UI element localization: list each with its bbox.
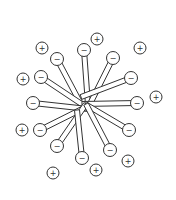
counter-ion: + bbox=[90, 164, 102, 176]
anionic-head: − bbox=[104, 144, 117, 157]
minus-sign-icon: − bbox=[126, 126, 133, 135]
minus-sign-icon: − bbox=[54, 55, 61, 64]
plus-sign-icon: + bbox=[50, 169, 57, 178]
plus-sign-icon: + bbox=[93, 166, 100, 175]
counter-ion: + bbox=[150, 91, 162, 103]
surfactant-tail bbox=[75, 110, 85, 159]
anionic-head: − bbox=[131, 97, 144, 110]
minus-sign-icon: − bbox=[81, 46, 88, 55]
plus-sign-icon: + bbox=[94, 35, 101, 44]
anionic-head: − bbox=[76, 152, 89, 165]
minus-sign-icon: − bbox=[79, 154, 86, 163]
counter-ion: + bbox=[17, 73, 29, 85]
anionic-head: − bbox=[107, 52, 120, 65]
minus-sign-icon: − bbox=[134, 99, 141, 108]
anionic-head: − bbox=[51, 140, 64, 153]
minus-sign-icon: − bbox=[38, 73, 45, 82]
minus-sign-icon: − bbox=[128, 74, 135, 83]
anionic-head: − bbox=[51, 53, 64, 66]
counter-ion: + bbox=[134, 42, 146, 54]
minus-sign-icon: − bbox=[107, 146, 114, 155]
anionic-head: − bbox=[27, 97, 40, 110]
counter-ion: + bbox=[122, 155, 134, 167]
micelle-diagram: −−−−−−−−−−−− +++++++++ bbox=[0, 0, 176, 200]
anionic-head: − bbox=[123, 124, 136, 137]
plus-sign-icon: + bbox=[125, 157, 132, 166]
anionic-head: − bbox=[34, 124, 47, 137]
anionic-head: − bbox=[125, 72, 138, 85]
plus-sign-icon: + bbox=[153, 93, 160, 102]
plus-sign-icon: + bbox=[137, 44, 144, 53]
counter-ion: + bbox=[91, 33, 103, 45]
counter-ion: + bbox=[47, 167, 59, 179]
minus-sign-icon: − bbox=[37, 126, 44, 135]
minus-sign-icon: − bbox=[54, 142, 61, 151]
minus-sign-icon: − bbox=[110, 54, 117, 63]
plus-sign-icon: + bbox=[19, 126, 26, 135]
plus-sign-icon: + bbox=[39, 44, 46, 53]
hydrophobic-tails bbox=[33, 50, 137, 158]
counter-ion: + bbox=[36, 42, 48, 54]
minus-sign-icon: − bbox=[30, 99, 37, 108]
plus-sign-icon: + bbox=[20, 75, 27, 84]
anionic-head: − bbox=[78, 44, 91, 57]
counter-ion: + bbox=[16, 124, 28, 136]
anionic-head: − bbox=[35, 71, 48, 84]
